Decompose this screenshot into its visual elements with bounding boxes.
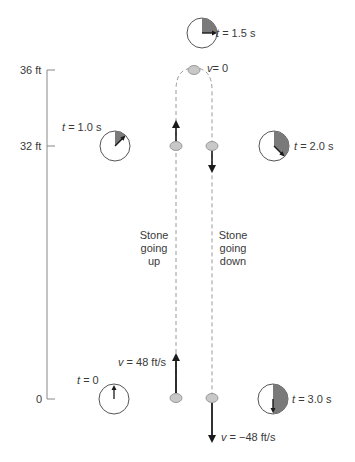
trajectory-path <box>176 68 212 395</box>
clock-icon-1-0s <box>100 131 130 161</box>
axis-tick-label-36ft: 36 ft <box>20 65 41 76</box>
caption-line: going <box>138 242 170 255</box>
clock-icon-2-0s <box>259 131 289 161</box>
velocity-label-impact: v = −48 ft/s <box>221 432 275 443</box>
caption-line: Stone <box>216 229 250 242</box>
stone-impact <box>206 394 218 403</box>
axis-tick-label-0: 0 <box>36 394 42 405</box>
caption-line: up <box>138 255 170 268</box>
stone-top <box>188 66 200 75</box>
stone-up-32ft <box>170 142 182 151</box>
caption-line: down <box>216 255 250 268</box>
velocity-label-top: v= 0 <box>207 63 228 74</box>
clock-label-1-0s: t = 1.0 s <box>62 122 101 133</box>
clock-label-2-0s: t = 2.0 s <box>294 141 333 152</box>
clock-label-0s: t = 0 <box>77 375 99 386</box>
clock-icon-1-5s <box>187 18 217 48</box>
clock-label-3-0s: t = 3.0 s <box>292 394 331 405</box>
height-axis <box>47 70 55 399</box>
clock-icon-3-0s <box>258 384 288 414</box>
velocity-label-launch: v = 48 ft/s <box>118 357 166 368</box>
stone-down-32ft <box>206 142 218 151</box>
axis-tick-label-32ft: 32 ft <box>20 141 41 152</box>
clock-icon-0s <box>99 384 129 414</box>
caption-line: going <box>216 242 250 255</box>
caption-stone-going-down: Stone going down <box>216 229 250 268</box>
caption-line: Stone <box>138 229 170 242</box>
caption-stone-going-up: Stone going up <box>138 229 170 268</box>
clock-label-1-5s: t = 1.5 s <box>216 28 255 39</box>
stone-launch <box>170 394 182 403</box>
